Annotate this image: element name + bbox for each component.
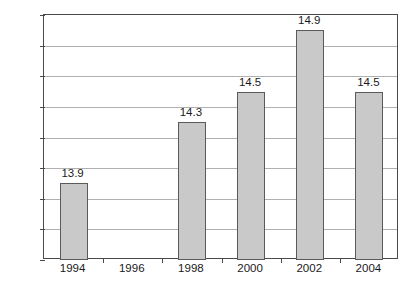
bar-chart: 15.014.814.614.414.214.013.813.613.4 199… bbox=[0, 0, 414, 288]
y-axis-tick-mark bbox=[40, 76, 45, 77]
gridline bbox=[44, 199, 397, 200]
y-axis-tick-mark bbox=[40, 15, 45, 16]
bar-value-label: 13.9 bbox=[43, 168, 103, 180]
y-axis-tick-mark bbox=[40, 138, 45, 139]
y-axis-tick-mark bbox=[40, 46, 45, 47]
bar-value-label: 14.5 bbox=[338, 77, 398, 89]
bar-value-label: 14.3 bbox=[161, 107, 221, 119]
bar bbox=[237, 92, 265, 260]
bar-value-label: 14.5 bbox=[220, 77, 280, 89]
x-axis-tick-label: 2004 bbox=[333, 263, 403, 275]
y-axis-tick-mark bbox=[40, 107, 45, 108]
gridline bbox=[44, 138, 397, 139]
y-axis-tick-mark bbox=[40, 229, 45, 230]
bar bbox=[178, 122, 206, 260]
bar-value-label: 14.9 bbox=[279, 15, 339, 27]
plot-area bbox=[43, 14, 398, 259]
bar bbox=[355, 92, 383, 260]
y-axis-tick-mark bbox=[40, 199, 45, 200]
y-axis-tick-mark bbox=[40, 260, 45, 261]
gridline bbox=[44, 46, 397, 47]
bar bbox=[296, 30, 324, 260]
gridline bbox=[44, 229, 397, 230]
bar bbox=[60, 183, 88, 260]
